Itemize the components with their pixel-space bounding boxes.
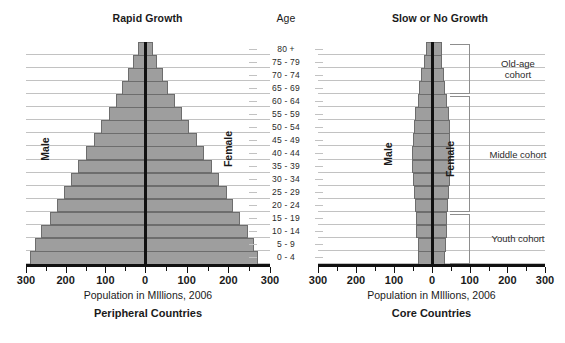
bar-female — [145, 68, 163, 82]
x-axis-line — [26, 264, 270, 267]
x-axis-tick — [375, 267, 376, 271]
bar-male — [413, 173, 432, 187]
leader-line — [249, 205, 257, 206]
bar-female — [432, 68, 444, 82]
bar-male — [128, 68, 145, 82]
age-group-label: 65 - 69 — [255, 83, 317, 93]
bar-female — [145, 173, 219, 187]
age-group-label: 60 - 64 — [255, 96, 317, 106]
x-axis-tick — [125, 267, 126, 271]
bar-female — [145, 199, 233, 213]
bar-male — [415, 107, 432, 121]
bar-female — [145, 160, 212, 174]
x-axis-tick — [413, 267, 414, 271]
x-axis-tick — [46, 267, 47, 271]
x-axis-tick-label: 100 — [85, 274, 125, 286]
x-axis-tick — [394, 267, 395, 273]
bar-male — [415, 199, 432, 213]
cohort-label: Old-agecohort — [474, 58, 562, 80]
bar-female — [432, 251, 445, 265]
x-axis-tick — [249, 267, 250, 271]
leader-line — [249, 192, 257, 193]
left-female-label: Female — [222, 119, 234, 179]
cohort-bracket — [450, 44, 470, 94]
cohort-label: Middle cohort — [474, 149, 562, 160]
leader-line — [249, 244, 257, 245]
age-group-label: 70 - 74 — [255, 70, 317, 80]
bar-female — [145, 107, 182, 121]
bar-female — [432, 94, 447, 108]
bar-male — [412, 146, 432, 160]
cohort-bracket — [450, 96, 470, 212]
leader-line — [249, 218, 257, 219]
x-axis-tick-label: 100 — [450, 274, 490, 286]
age-group-label: 45 - 49 — [255, 135, 317, 145]
cohort-label-line: Youth cohort — [474, 233, 562, 244]
bar-male — [30, 251, 145, 265]
right-panel-heading: Slow or No Growth — [360, 12, 520, 24]
bar-female — [145, 94, 175, 108]
x-axis-tick-label: 200 — [487, 274, 527, 286]
right-chart-subtitle: Core Countries — [318, 307, 545, 319]
bar-male — [94, 133, 145, 147]
x-axis-tick — [432, 267, 433, 273]
leader-line — [249, 114, 257, 115]
leader-line — [249, 127, 257, 128]
bar-female — [145, 55, 157, 69]
bar-female — [145, 146, 204, 160]
bar-male — [418, 251, 432, 265]
bar-male — [41, 225, 145, 239]
x-axis-tick — [228, 267, 229, 273]
bar-female — [145, 186, 227, 200]
age-group-label: 40 - 44 — [255, 148, 317, 158]
x-axis-tick-label: 0 — [412, 274, 452, 286]
x-axis-tick — [166, 267, 167, 271]
x-axis-tick — [337, 267, 338, 271]
bar-female — [432, 212, 447, 226]
x-axis-tick-label: 300 — [250, 274, 290, 286]
bar-male — [78, 160, 145, 174]
x-axis-tick — [318, 267, 319, 273]
cohort-label-line: Old-age — [474, 58, 562, 69]
leader-line — [249, 140, 257, 141]
cohort-bracket — [450, 214, 470, 264]
age-group-label: 30 - 34 — [255, 174, 317, 184]
bar-female — [432, 225, 447, 239]
x-axis-tick — [356, 267, 357, 273]
age-group-label: 0 - 4 — [255, 252, 317, 262]
bar-male — [35, 238, 145, 252]
bar-female — [145, 81, 168, 95]
bar-male — [414, 120, 432, 134]
bar-male — [418, 94, 432, 108]
x-axis-tick-label: 300 — [298, 274, 338, 286]
age-group-label: 35 - 39 — [255, 161, 317, 171]
leader-line — [249, 101, 257, 102]
bar-female — [145, 225, 248, 239]
leader-line — [249, 49, 257, 50]
population-pyramid-figure: Rapid Growth Age Slow or No Growth 30020… — [0, 0, 565, 343]
age-group-label: 5 - 9 — [255, 239, 317, 249]
x-axis-tick-label: 200 — [46, 274, 86, 286]
x-axis-tick-label: 100 — [374, 274, 414, 286]
bar-female — [432, 238, 446, 252]
age-group-label: 80 + — [255, 44, 317, 54]
x-axis-tick — [145, 267, 146, 273]
leader-line — [249, 88, 257, 89]
leader-line — [249, 153, 257, 154]
bar-male — [414, 186, 432, 200]
cohort-label-line: Middle cohort — [474, 149, 562, 160]
bar-male — [64, 186, 145, 200]
right-axis-caption: Population in MIllions, 2006 — [318, 289, 545, 301]
bar-male — [50, 212, 145, 226]
age-group-label: 25 - 29 — [255, 187, 317, 197]
right-male-label: Male — [382, 124, 394, 184]
cohort-brackets: Old-agecohortMiddle cohortYouth cohort — [450, 42, 565, 274]
age-group-label: 50 - 54 — [255, 122, 317, 132]
age-label-column: 80 +75 - 7970 - 7465 - 6960 - 6455 - 595… — [255, 42, 317, 264]
bar-male — [412, 160, 432, 174]
x-axis-tick — [66, 267, 67, 273]
leader-line — [249, 257, 257, 258]
bar-male — [416, 225, 432, 239]
cohort-label: Youth cohort — [474, 233, 562, 244]
bar-female — [145, 120, 189, 134]
